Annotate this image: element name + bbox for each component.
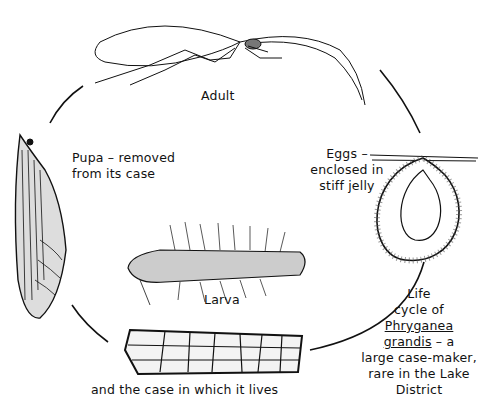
label-eggs-line3: stiff jelly [292, 178, 402, 194]
larval-case-drawing [125, 330, 302, 374]
pupa-drawing [15, 135, 66, 318]
label-pupa: Pupa – removed from its case [72, 150, 175, 182]
caption-epithet: grandis [384, 334, 432, 349]
label-pupa-line2: from its case [72, 166, 175, 182]
caption-line4-suffix: – a [432, 334, 455, 349]
label-larva: Larva [204, 292, 240, 308]
label-case: and the case in which it lives [91, 382, 278, 398]
label-eggs-line1: Eggs – [292, 146, 402, 162]
arc-case-to-pupa [72, 305, 108, 342]
caption-line7: District [350, 382, 488, 398]
caption-line6: rare in the Lake [350, 366, 488, 382]
caption-genus: Phryganea [385, 318, 454, 333]
caption: Life cycle of Phryganea grandis – a larg… [350, 286, 488, 398]
caption-line2: cycle of [350, 302, 488, 318]
label-eggs-line2: enclosed in [292, 162, 402, 178]
label-eggs: Eggs – enclosed in stiff jelly [292, 146, 402, 194]
caption-line5: large case-maker, [350, 350, 488, 366]
label-adult: Adult [201, 88, 235, 104]
arc-pupa-to-adult [50, 86, 83, 123]
label-pupa-line1: Pupa – removed [72, 150, 175, 166]
arc-adult-to-eggs [380, 70, 420, 133]
caption-line1: Life [350, 286, 488, 302]
